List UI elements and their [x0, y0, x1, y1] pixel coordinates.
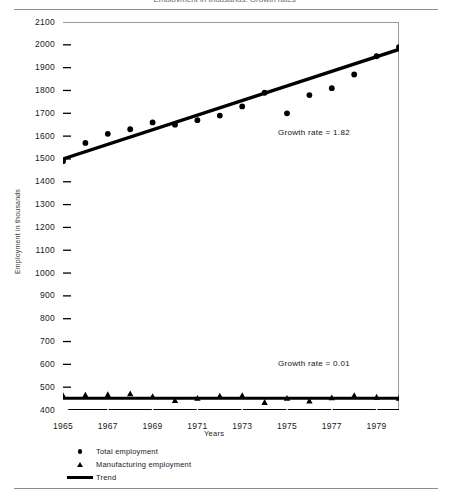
- data-point-manufacturing-employment: [127, 390, 133, 396]
- y-tick-label: 600: [11, 359, 55, 369]
- legend-item-manufacturing-employment: Manufacturing employment: [64, 458, 304, 471]
- chart-canvas: [63, 22, 399, 410]
- data-point-total-employment: [307, 92, 313, 98]
- data-point-total-employment: [105, 131, 111, 137]
- data-point-total-employment: [83, 140, 89, 146]
- plot-area: [63, 22, 399, 410]
- y-tick-label: 2000: [11, 39, 55, 49]
- x-tick-label: 1973: [222, 421, 262, 431]
- cut-off-caption: Employment in thousands, Growth rates: [0, 0, 449, 2]
- y-tick-label: 1000: [11, 268, 55, 278]
- bottom-divider-rule: [14, 488, 438, 489]
- x-axis-title: Years: [204, 429, 224, 438]
- data-point-total-employment: [351, 72, 357, 78]
- data-point-manufacturing-employment: [351, 392, 357, 398]
- y-tick-label: 400: [11, 405, 55, 415]
- y-tick-label: 1200: [11, 222, 55, 232]
- y-tick-label: 800: [11, 313, 55, 323]
- annotation-growth-manufacturing: Growth rate = 0.01: [278, 359, 350, 368]
- legend-label: Trend: [96, 473, 116, 482]
- y-tick-label: 2100: [11, 17, 55, 27]
- x-tick-label: 1969: [133, 421, 173, 431]
- line-marker-icon: [64, 476, 96, 479]
- top-divider-rule: [14, 9, 438, 10]
- x-tick-label: 1965: [43, 421, 83, 431]
- data-point-total-employment: [329, 85, 335, 91]
- x-axis-spine: [63, 409, 399, 410]
- y-tick-label: 1600: [11, 131, 55, 141]
- trend-line-total: [63, 49, 399, 159]
- legend-item-trend: Trend: [64, 471, 304, 484]
- data-point-total-employment: [150, 120, 156, 126]
- data-point-total-employment: [262, 90, 268, 96]
- data-point-manufacturing-employment: [239, 392, 245, 398]
- data-point-manufacturing-employment: [261, 399, 267, 405]
- data-point-manufacturing-employment: [105, 391, 111, 397]
- legend-label: Manufacturing employment: [96, 460, 191, 469]
- data-point-manufacturing-employment: [82, 392, 88, 398]
- figure-panel: Employment in thousands, Growth rates Em…: [0, 0, 449, 497]
- triangle-marker-icon: [64, 462, 96, 467]
- data-point-total-employment: [127, 126, 133, 132]
- x-tick-label: 1975: [267, 421, 307, 431]
- annotation-growth-total: Growth rate = 1.82: [278, 128, 350, 137]
- data-point-manufacturing-employment: [217, 393, 223, 399]
- y-tick-label: 1800: [11, 85, 55, 95]
- circle-marker-icon: [64, 449, 96, 454]
- data-point-total-employment: [172, 122, 178, 128]
- legend-label: Total employment: [96, 447, 158, 456]
- data-point-total-employment: [217, 113, 223, 119]
- y-tick-label: 1300: [11, 199, 55, 209]
- y-tick-label: 900: [11, 290, 55, 300]
- data-point-manufacturing-employment: [63, 392, 66, 398]
- y-tick-label: 1400: [11, 176, 55, 186]
- data-point-total-employment: [239, 104, 245, 110]
- x-tick-label: 1979: [357, 421, 397, 431]
- data-point-total-employment: [374, 53, 380, 59]
- chart-legend: Total employment Manufacturing employmen…: [64, 445, 304, 484]
- y-tick-label: 1900: [11, 62, 55, 72]
- x-tick-label: 1977: [312, 421, 352, 431]
- data-point-manufacturing-employment: [149, 393, 155, 399]
- y-tick-label: 500: [11, 382, 55, 392]
- legend-item-total-employment: Total employment: [64, 445, 304, 458]
- y-tick-label: 1100: [11, 245, 55, 255]
- y-tick-label: 1700: [11, 108, 55, 118]
- x-tick-label: 1967: [88, 421, 128, 431]
- data-point-total-employment: [284, 110, 290, 116]
- data-point-total-employment: [195, 117, 201, 123]
- y-tick-label: 700: [11, 336, 55, 346]
- y-tick-label: 1500: [11, 153, 55, 163]
